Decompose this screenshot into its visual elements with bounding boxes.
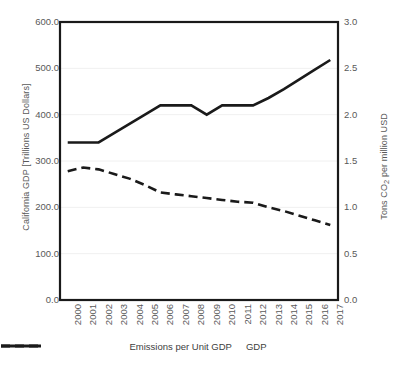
- legend-solid-line-icon: [0, 341, 42, 351]
- x-axis-tick-label: 2006: [164, 304, 175, 325]
- y-axis-left-tick-label: 300.0: [35, 156, 59, 166]
- x-axis-tick-label: 2016: [319, 304, 330, 325]
- y-axis-left-tick-label: 200.0: [35, 202, 59, 212]
- legend-item[interactable]: Emissions per Unit GDP: [129, 341, 231, 352]
- x-axis-tick-label: 2012: [257, 304, 268, 325]
- x-axis-tick-label: 2003: [118, 304, 129, 325]
- y-axis-right-tick-label: 1.5: [344, 156, 357, 166]
- y-axis-left-tick-label: 100.0: [35, 249, 59, 259]
- y-axis-left-tick-label: 500.0: [35, 63, 59, 73]
- x-axis-tick-label: 2015: [303, 304, 314, 325]
- x-axis-tick-label: 2013: [273, 304, 284, 325]
- legend-item-label: GDP: [246, 341, 267, 352]
- x-axis-tick-label: 2014: [288, 304, 299, 325]
- y-axis-right-tick-label: 1.0: [344, 202, 357, 212]
- chart-figure: California GDP [Trillions US Dollars] To…: [0, 0, 396, 365]
- x-axis-tick-label: 2007: [180, 304, 191, 325]
- x-axis-tick-label: 2001: [87, 304, 98, 325]
- y-axis-left-tick-label: 600.0: [35, 17, 59, 27]
- y-axis-left-tick-label: 400.0: [35, 110, 59, 120]
- y-axis-right-tick-label: 2.5: [344, 63, 357, 73]
- y-axis-left-tick-label: 0.0: [46, 295, 59, 305]
- x-axis-tick-label: 2010: [226, 304, 237, 325]
- x-axis-tick-label: 2011: [242, 304, 253, 324]
- x-axis-tick-label: 2004: [134, 304, 145, 325]
- y-axis-right-tick-label: 0.5: [344, 249, 357, 259]
- chart-legend: Emissions per Unit GDPGDP: [0, 341, 396, 352]
- x-axis-tick-label: 2005: [149, 304, 160, 325]
- y-axis-right-tick-label: 0.0: [344, 295, 357, 305]
- x-axis-tick-label: 2000: [72, 304, 83, 325]
- x-axis-tick-label: 2017: [334, 304, 345, 325]
- x-axis-tick-label: 2009: [211, 304, 222, 325]
- y-axis-right-tick-label: 3.0: [344, 17, 357, 27]
- series-line-emissions-per-unit-gdp: [68, 167, 331, 224]
- series-line-gdp: [68, 60, 331, 142]
- x-axis-tick-label: 2002: [103, 304, 114, 325]
- legend-item-label: Emissions per Unit GDP: [129, 341, 231, 352]
- legend-item[interactable]: GDP: [246, 341, 267, 352]
- x-axis-tick-label: 2008: [195, 304, 206, 325]
- y-axis-right-tick-label: 2.0: [344, 110, 357, 120]
